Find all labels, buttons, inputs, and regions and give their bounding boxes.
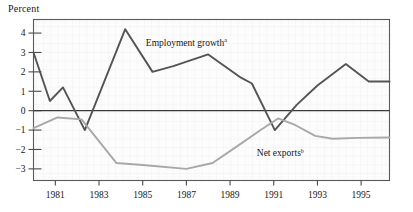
footnote-marker: b [301, 148, 304, 154]
series-label-net-exports: Net exportsb [257, 148, 304, 158]
y-tick-label: −1 [15, 125, 25, 135]
y-tick-label: −3 [15, 164, 25, 174]
x-tick-label: 1981 [46, 190, 65, 200]
x-tick-label: 1985 [133, 190, 152, 200]
y-tick-label: 4 [21, 28, 26, 38]
x-tick-label: 1989 [221, 190, 240, 200]
footnote-marker: a [224, 37, 227, 43]
y-tick-label: 2 [21, 67, 26, 77]
y-tick-label: 0 [21, 106, 26, 116]
x-tick-label: 1995 [352, 190, 371, 200]
series-label-employment-growth: Employment growtha [146, 37, 227, 47]
x-tick-label: 1983 [90, 190, 109, 200]
y-tick-label: 3 [21, 48, 26, 58]
x-axis-ticks [55, 181, 361, 186]
y-tick-label: 1 [21, 87, 26, 97]
x-tick-label: 1987 [177, 190, 196, 200]
line-chart-svg: 43210−1−2−3 1981198319851987198919911993… [0, 0, 413, 212]
y-tick-label: −2 [15, 145, 25, 155]
x-tick-label: 1991 [264, 190, 283, 200]
x-tick-label: 1993 [308, 190, 327, 200]
plot-area: 43210−1−2−3 1981198319851987198919911993… [0, 0, 413, 212]
y-axis-tick-labels: 43210−1−2−3 [15, 28, 25, 174]
x-axis-tick-labels: 19811983198519871989199119931995 [46, 190, 371, 200]
chart-figure: Percent 43210−1−2−3 19811983198519871989… [0, 0, 413, 212]
